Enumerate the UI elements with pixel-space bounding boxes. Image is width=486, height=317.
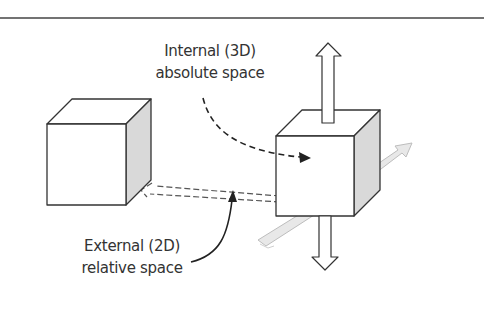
down-arrow [312,216,338,270]
external-label-line1: External (2D) [68,235,196,257]
left-cube-front-face [47,124,126,205]
external-space-label: External (2D) relative space [68,235,196,279]
external-label-line2: relative space [68,257,196,279]
external-pointer [191,190,237,262]
internal-space-label: Internal (3D) absolute space [140,40,280,84]
dashed-hollow-arrow [141,183,280,202]
left-cube [47,99,151,205]
right-cube [276,110,380,216]
right-cube-front-face [276,136,354,216]
internal-label-line2: absolute space [140,62,280,84]
internal-label-line1: Internal (3D) [140,40,280,62]
